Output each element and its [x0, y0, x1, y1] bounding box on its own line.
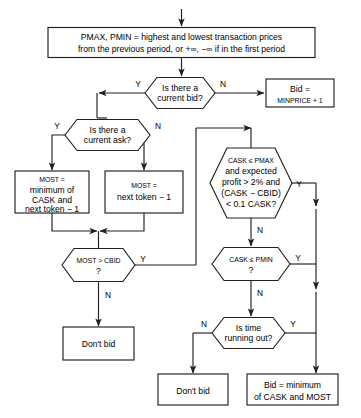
- node-dont-bid-bottom: Don't bid: [158, 374, 228, 405]
- node-time-out-line2: running out?: [225, 333, 273, 343]
- flowchart-page: PMAX, PMIN = highest and lowest transact…: [0, 0, 361, 418]
- node-init-line2: from the previous period, or +∞, −∞ if i…: [78, 44, 285, 54]
- node-time-out: Is time running out? N Y: [201, 318, 296, 349]
- node-cask-pmax-line4: (CASK − CBID): [221, 188, 281, 198]
- label-cask-pmax-no: N: [257, 225, 263, 235]
- connector-most-next-to-merge: [100, 213, 144, 231]
- connector-cask-pmin-yes-to-rail: [290, 209, 316, 289]
- label-cask-pmax-yes: Y: [296, 179, 302, 189]
- node-current-bid-line1: Is there a: [162, 83, 198, 93]
- node-current-ask: Is there a current ask? Y N: [54, 120, 161, 151]
- node-most-min: MOST = minimum of CASK and next token − …: [15, 171, 89, 214]
- node-dont-bid-left: Don't bid: [63, 327, 134, 360]
- connector-most-min-to-merge: [52, 213, 97, 231]
- node-bid-minprice-line1: Bid =: [290, 84, 310, 94]
- node-most-cbid-line2: ?: [96, 266, 101, 276]
- label-time-out-yes: Y: [290, 319, 296, 329]
- node-bid-minprice-line2: MINPRICE + 1: [277, 97, 323, 104]
- label-current-ask-yes: Y: [54, 121, 60, 131]
- node-current-bid: Is there a current bid? Y N: [135, 78, 226, 109]
- node-cask-pmax-line1: CASK ≤ PMAX: [228, 157, 274, 164]
- node-init: PMAX, PMIN = highest and lowest transact…: [48, 28, 315, 58]
- node-cask-pmin-line1: CASK ≤ PMIN: [229, 256, 273, 263]
- node-cask-pmax-line5: < 0.1 CASK?: [226, 199, 276, 209]
- node-cask-pmax-line2: and expected: [225, 166, 277, 176]
- node-cask-pmax-line3: profit > 2% and: [222, 177, 280, 187]
- node-bid-min-line2: of CASK and MOST: [254, 392, 332, 402]
- node-most-next: MOST = next token − 1: [105, 171, 183, 213]
- node-time-out-line1: Is time: [236, 323, 262, 333]
- node-most-min-line2: minimum of: [30, 185, 75, 195]
- node-current-ask-line2: current ask?: [84, 135, 132, 145]
- node-most-min-line3: CASK and: [32, 195, 72, 205]
- node-bid-min-line1: Bid = minimum: [264, 380, 321, 390]
- node-cask-pmin-line2: ?: [249, 265, 254, 275]
- connector-current-bid-yes-to-current-ask: [97, 93, 145, 118]
- node-most-min-line1: MOST =: [39, 176, 65, 183]
- flowchart-svg: PMAX, PMIN = highest and lowest transact…: [0, 0, 361, 418]
- label-cask-pmin-no: N: [257, 288, 263, 298]
- label-most-cbid-yes: Y: [140, 254, 146, 264]
- label-current-bid-yes: Y: [135, 79, 141, 89]
- node-init-line1: PMAX, PMIN = highest and lowest transact…: [81, 32, 282, 42]
- node-cask-pmin: CASK ≤ PMIN ? Y N: [212, 248, 301, 299]
- node-dont-bid-left-label: Don't bid: [82, 339, 116, 349]
- node-most-next-line2: next token − 1: [117, 192, 171, 202]
- node-bid-min: Bid = minimum of CASK and MOST: [247, 374, 338, 405]
- connector-time-out-yes-to-bid-min: [285, 292, 316, 373]
- node-current-ask-line1: Is there a: [90, 125, 126, 135]
- node-most-cbid: MOST > CBID ? Y N: [62, 249, 146, 301]
- connector-current-ask-yes-to-most-min: [52, 135, 65, 170]
- label-cask-pmin-yes: Y: [295, 253, 301, 263]
- node-most-next-line1: MOST =: [131, 182, 157, 189]
- node-cask-pmax: CASK ≤ PMAX and expected profit > 2% and…: [210, 148, 302, 235]
- node-most-min-line4: next token − 1: [25, 204, 79, 214]
- connector-time-out-no-to-dont-bid-bottom: [193, 333, 212, 373]
- label-current-ask-no: N: [155, 121, 161, 131]
- label-current-bid-no: N: [220, 79, 226, 89]
- node-current-bid-line2: current bid?: [157, 93, 203, 103]
- node-dont-bid-bottom-label: Don't bid: [176, 386, 210, 396]
- node-most-cbid-line1: MOST > CBID: [76, 257, 120, 264]
- label-time-out-no: N: [201, 319, 207, 329]
- node-bid-minprice: Bid = MINPRICE + 1: [266, 79, 334, 107]
- label-most-cbid-no: N: [105, 290, 111, 300]
